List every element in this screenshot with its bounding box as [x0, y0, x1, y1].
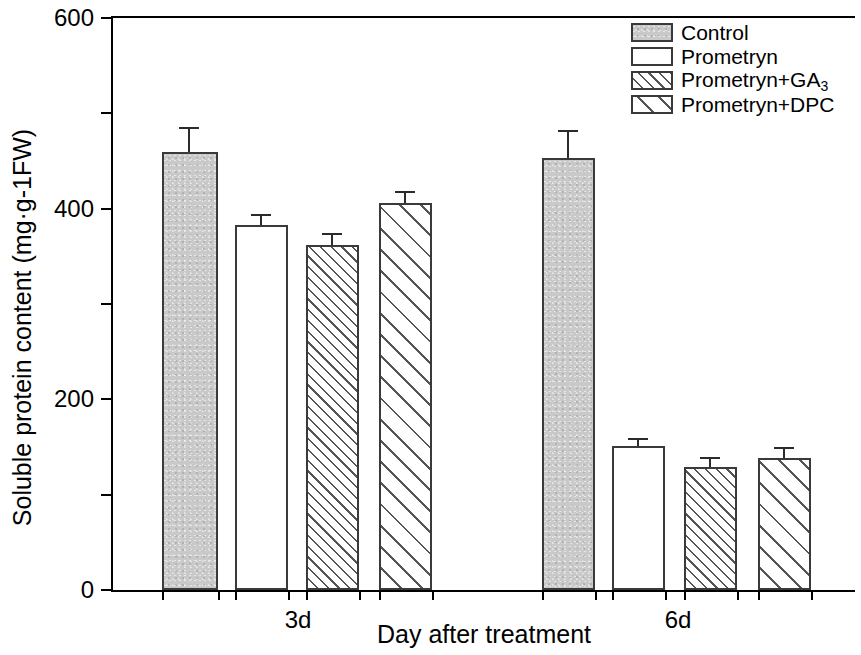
bar-6d-control [542, 158, 595, 590]
y-axis-title: Soluble protein content (mg·g-1FW) [0, 0, 44, 655]
y-tick-500 [101, 112, 111, 114]
legend-item-control: Control [631, 21, 834, 44]
x-axis-title-text: Day after treatment [377, 620, 591, 648]
x-axis-title: Day after treatment [113, 620, 855, 649]
y-tick-300 [101, 303, 111, 305]
bar-6d-prometryn [612, 446, 665, 590]
x-tick [595, 590, 597, 600]
errorbar-cap-3d-prometryn-ga3 [322, 233, 342, 235]
legend-label-control: Control [681, 22, 749, 43]
errorbar-6d-control [567, 130, 569, 158]
chart-figure: Soluble protein content (mg·g-1FW) Day a… [0, 0, 861, 655]
bar-3d-control [162, 152, 218, 590]
x-tick [432, 590, 434, 600]
axis-spine-bottom [111, 590, 855, 592]
errorbar-3d-control [188, 127, 190, 152]
x-tick [811, 590, 813, 600]
x-tick [737, 590, 739, 600]
bar-3d-prometryn-dpc [379, 203, 432, 590]
x-tick [665, 590, 667, 600]
x-tick [162, 590, 164, 600]
legend-label-prometryn-ga3-sub: 3 [820, 78, 828, 94]
y-tick-200: 200 [101, 398, 111, 400]
x-tick [359, 590, 361, 600]
y-tick-label-200: 200 [54, 385, 94, 413]
legend-swatch-prometryn-icon [631, 47, 673, 66]
bar-6d-prometryn-ga3 [684, 467, 737, 590]
legend-label-prometryn: Prometryn [681, 46, 778, 67]
x-tick [542, 590, 544, 600]
bar-3d-prometryn [235, 225, 288, 590]
legend-swatch-control-icon [631, 23, 673, 42]
y-tick-100 [101, 494, 111, 496]
x-tick [288, 590, 290, 600]
axis-spine-top [111, 16, 855, 18]
y-tick-0: 0 [101, 589, 111, 591]
legend-item-prometryn-dpc: Prometryn+DPC [631, 93, 834, 116]
x-tick [684, 590, 686, 600]
y-tick-label-600: 600 [54, 4, 94, 32]
errorbar-cap-3d-control [179, 127, 199, 129]
errorbar-cap-6d-prometryn [628, 438, 648, 440]
x-tick [218, 590, 220, 600]
errorbar-cap-6d-prometryn-ga3 [700, 457, 720, 459]
legend-label-prometryn-dpc: Prometryn+DPC [681, 94, 834, 115]
legend-item-prometryn-ga3: Prometryn+GA3 [631, 69, 834, 92]
x-tick [235, 590, 237, 600]
errorbar-cap-3d-prometryn [251, 214, 271, 216]
chart-legend: Control Prometryn Prometryn+GA3 Prometry… [631, 21, 834, 117]
axis-spine-left [111, 16, 113, 592]
legend-item-prometryn: Prometryn [631, 45, 834, 68]
x-tick [612, 590, 614, 600]
x-tick [379, 590, 381, 600]
errorbar-cap-3d-prometryn-dpc [395, 191, 415, 193]
y-tick-label-400: 400 [54, 195, 94, 223]
y-tick-400: 400 [101, 208, 111, 210]
x-group-label-3d: 3d [285, 606, 312, 634]
y-tick-label-0: 0 [81, 576, 94, 604]
bar-3d-prometryn-ga3 [306, 245, 359, 590]
legend-swatch-prometryn-dpc-icon [631, 95, 673, 114]
y-axis-title-text: Soluble protein content (mg·g-1FW) [8, 129, 37, 526]
errorbar-cap-6d-control [558, 130, 578, 132]
x-tick [758, 590, 760, 600]
errorbar-cap-6d-prometryn-dpc [774, 447, 794, 449]
x-tick [306, 590, 308, 600]
legend-label-prometryn-ga3: Prometryn+GA3 [681, 69, 828, 93]
x-group-label-6d: 6d [665, 606, 692, 634]
bar-6d-prometryn-dpc [758, 458, 811, 590]
legend-swatch-prometryn-ga3-icon [631, 71, 673, 90]
y-tick-600: 600 [101, 17, 111, 19]
legend-label-prometryn-ga3-base: Prometryn+GA [681, 68, 820, 91]
